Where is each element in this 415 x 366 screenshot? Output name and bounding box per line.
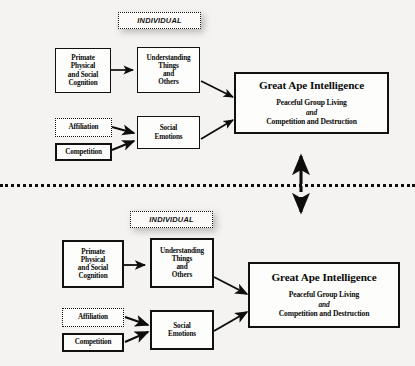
- gai-line2-bottom: Competition and Destruction: [252, 309, 396, 319]
- node-understanding-top: Understanding Things and Others: [137, 47, 200, 93]
- individual-tag-label-top: INDIVIDUAL: [137, 16, 181, 25]
- understanding-line-2: Things: [140, 62, 197, 70]
- competition-label-bottom: Competition: [75, 338, 112, 346]
- gai-line1-bottom: Peaceful Group Living: [252, 290, 396, 300]
- social-emotions-line-2-b: Emotions: [154, 330, 210, 338]
- node-great-ape-intelligence-bottom: Great Ape Intelligence Peaceful Group Li…: [248, 262, 400, 328]
- gai-and-bottom: and: [252, 300, 396, 309]
- social-emotions-line-1-b: Social: [154, 322, 210, 330]
- individual-tag-bottom: INDIVIDUAL: [130, 211, 213, 228]
- node-affiliation-top: Affiliation: [55, 118, 112, 137]
- node-primate-cognition-bottom: Primate Physical and Social Cognition: [62, 240, 124, 288]
- understanding-line-1-b: Understanding: [154, 247, 210, 255]
- node-understanding-bottom: Understanding Things and Others: [150, 238, 214, 288]
- understanding-line-1: Understanding: [140, 54, 197, 62]
- node-social-emotions-top: Social Emotions: [137, 116, 200, 149]
- primate-line-1: Primate: [58, 54, 108, 62]
- individual-tag-top: INDIVIDUAL: [118, 12, 201, 29]
- primate-line-4: Cognition: [58, 79, 108, 87]
- node-competition-top: Competition: [55, 143, 112, 161]
- understanding-line-4-b: Others: [154, 271, 210, 279]
- gai-title-bottom: Great Ape Intelligence: [252, 271, 396, 284]
- primate-line-4-b: Cognition: [66, 272, 120, 280]
- node-primate-cognition-top: Primate Physical and Social Cognition: [55, 48, 111, 93]
- understanding-line-4: Others: [140, 78, 197, 86]
- social-emotions-line-1: Social: [140, 124, 197, 132]
- gai-line2-top: Competition and Destruction: [238, 117, 385, 127]
- diagram-canvas: INDIVIDUAL Primate Physical and Social C…: [0, 0, 415, 366]
- affiliation-label-bottom: Affiliation: [78, 313, 108, 321]
- primate-line-3: and Social: [58, 71, 108, 79]
- node-social-emotions-bottom: Social Emotions: [150, 310, 214, 350]
- node-great-ape-intelligence-top: Great Ape Intelligence Peaceful Group Li…: [234, 72, 389, 134]
- understanding-line-3-b: and: [154, 263, 210, 271]
- gai-title-top: Great Ape Intelligence: [238, 79, 385, 92]
- social-emotions-line-2: Emotions: [140, 133, 197, 141]
- gai-and-top: and: [238, 108, 385, 117]
- primate-line-1-b: Primate: [66, 248, 120, 256]
- primate-line-2-b: Physical: [66, 256, 120, 264]
- primate-line-2: Physical: [58, 62, 108, 70]
- node-competition-bottom: Competition: [62, 333, 124, 352]
- gai-line1-top: Peaceful Group Living: [238, 98, 385, 108]
- individual-tag-label-bottom: INDIVIDUAL: [149, 215, 193, 224]
- panel-divider: [0, 184, 415, 187]
- node-affiliation-bottom: Affiliation: [62, 308, 124, 327]
- primate-line-3-b: and Social: [66, 264, 120, 272]
- competition-label-top: Competition: [65, 148, 102, 156]
- understanding-line-3: and: [140, 70, 197, 78]
- affiliation-label-top: Affiliation: [69, 123, 99, 131]
- understanding-line-2-b: Things: [154, 255, 210, 263]
